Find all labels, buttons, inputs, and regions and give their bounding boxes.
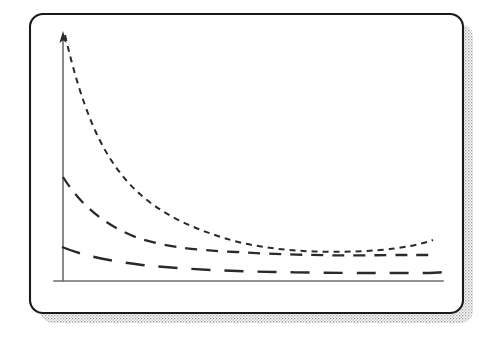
panel-frame [30,14,463,313]
figure-container [0,0,496,340]
decay-curves-figure [0,0,496,340]
